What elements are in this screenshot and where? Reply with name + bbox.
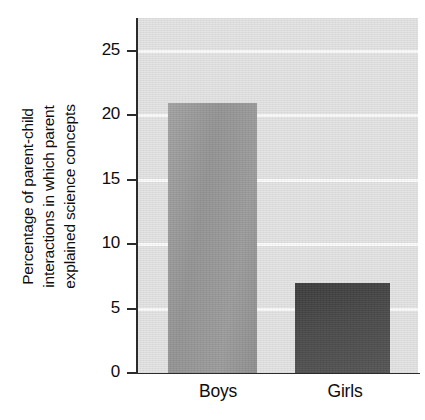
bar-girls bbox=[295, 283, 390, 373]
bar-boys bbox=[168, 103, 257, 373]
y-axis-title-line-1: Percentage of parent-child bbox=[17, 104, 38, 288]
y-axis-title-text: Percentage of parent-child interactions … bbox=[17, 104, 80, 288]
plot-area bbox=[137, 18, 418, 373]
y-axis-label-0: 0 bbox=[78, 362, 120, 382]
x-axis-label-boys: Boys bbox=[178, 381, 258, 402]
y-axis-title-line-3: explained science concepts bbox=[59, 104, 80, 288]
y-axis-tick-25 bbox=[127, 50, 137, 52]
y-axis-tick-15 bbox=[127, 179, 137, 181]
y-axis-label-20: 20 bbox=[78, 104, 120, 124]
y-axis-label-5: 5 bbox=[78, 298, 120, 318]
y-axis-tick-0 bbox=[127, 372, 137, 374]
y-axis-label-25: 25 bbox=[78, 40, 120, 60]
y-axis-label-10: 10 bbox=[78, 233, 120, 253]
x-axis-line bbox=[128, 373, 420, 375]
y-axis-line bbox=[136, 18, 138, 374]
y-axis-tick-20 bbox=[127, 114, 137, 116]
bar-chart-figure: Percentage of parent-child interactions … bbox=[0, 0, 425, 420]
y-axis-title-line-2: interactions in which parent bbox=[38, 104, 59, 288]
y-axis-tick-5 bbox=[127, 308, 137, 310]
x-axis-label-girls: Girls bbox=[305, 381, 385, 402]
y-axis-label-15: 15 bbox=[78, 169, 120, 189]
gridline-25 bbox=[137, 50, 418, 53]
y-axis-tick-10 bbox=[127, 243, 137, 245]
